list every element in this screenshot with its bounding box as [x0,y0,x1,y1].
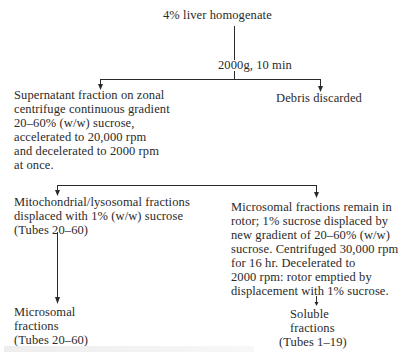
node-line: (Tubes 20–60) [14,224,88,238]
arrowhead-icon [314,192,319,198]
centrifuge-condition-label: 2000g, 10 min [218,59,292,73]
node-line: and decelerated to 2000 rpm [14,145,159,159]
node-line: Microsomal fractions remain in [231,201,392,215]
node-line: Soluble [290,308,329,322]
arrowhead-icon [315,302,319,306]
node-line: rotor; 1% sucrose displaced by [231,215,388,229]
faint-caption [4,346,254,352]
node-line: (Tubes 1–19) [279,336,347,350]
node-line: displaced with 1% (w/w) sucrose [14,210,183,224]
arrowhead-icon [55,297,60,304]
node-line: fractions [290,322,335,336]
debris-node: Debris discarded [276,92,362,106]
node-line: Mitochondrial/lysosomal fractions [14,196,190,210]
root-node: 4% liver homogenate [163,9,272,23]
node-line: for 16 hr. Decelerated to [231,257,355,271]
node-line: 2000 rpm: rotor emptied by [231,271,372,285]
node-line: displacement with 1% sucrose. [231,285,389,299]
flow-connectors [0,0,406,354]
node-line: centrifuge continuous gradient [14,103,170,117]
node-line: sucrose. Centrifuged 30,000 rpm [231,243,398,257]
node-line: Supernatant fraction on zonal [14,89,164,103]
node-line: accelerated to 20,000 rpm [14,131,146,145]
node-line: fractions [14,320,59,334]
node-line: new gradient of 20–60% (w/w) [231,229,390,243]
node-line: Microsomal [14,306,75,320]
node-line: at once. [14,159,54,173]
node-line: 20–60% (w/w) sucrose, [14,117,134,131]
